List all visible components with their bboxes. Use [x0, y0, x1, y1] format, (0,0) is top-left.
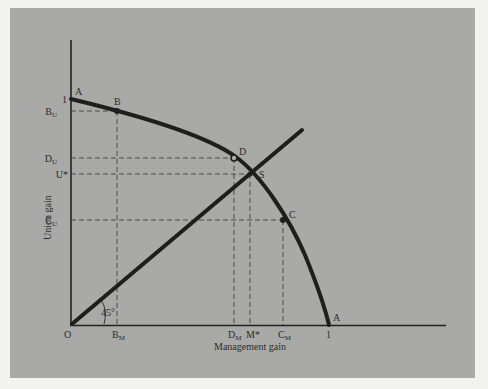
label-point-s: S	[259, 169, 265, 180]
x-axis-title: Management gain	[214, 341, 286, 352]
label-x-one: 1	[326, 329, 331, 340]
label-point-c: C	[289, 209, 296, 220]
label-m-star: M*	[246, 329, 260, 340]
label-u-star: U*	[56, 169, 68, 180]
bargaining-diagram: A 1 A 1 O B D S C BU DU U* CU BM DM M* C…	[0, 0, 488, 389]
guide-lines	[71, 111, 283, 325]
forty-five-degree-line	[72, 130, 302, 324]
label-point-b: B	[114, 96, 121, 107]
label-a-top: A	[75, 86, 83, 97]
label-a-bottom: A	[333, 312, 341, 323]
label-b-m: BM	[112, 329, 126, 342]
y-axis-title: Union gain	[42, 195, 53, 240]
label-point-d: D	[239, 146, 246, 157]
label-b-u: BU	[45, 106, 57, 119]
label-d-u: DU	[45, 153, 57, 166]
label-y-one: 1	[62, 94, 67, 105]
point-b-marker	[114, 108, 120, 114]
point-c-marker	[280, 217, 286, 223]
label-origin: O	[64, 329, 71, 340]
label-angle: 45°	[101, 307, 115, 318]
point-s-marker	[248, 172, 253, 177]
point-d-marker	[231, 155, 237, 161]
